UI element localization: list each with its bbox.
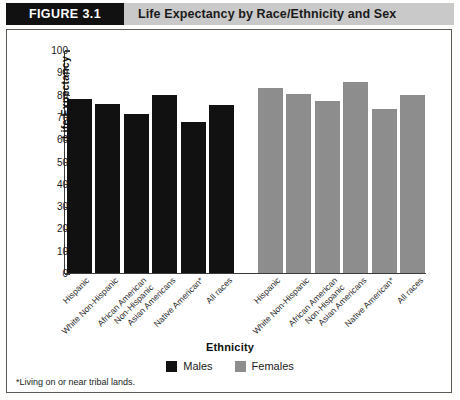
bars-layer [65,51,426,273]
x-axis-title: Ethnicity [0,341,460,353]
bar-males [67,99,92,273]
legend-item-males: Males [166,360,212,372]
x-axis-label: All races [395,276,425,306]
legend-swatch-females-icon [235,361,246,372]
bar-females [286,94,311,274]
figure-footnote: *Living on or near tribal lands. [16,377,135,387]
bar-males [95,104,120,273]
y-axis-tick-mark [65,273,70,274]
bar-females [343,82,368,273]
legend-swatch-males-icon [166,361,177,372]
bar-females [372,109,397,273]
figure-title: Life Expectancy by Race/Ethnicity and Se… [124,3,454,25]
legend-item-females: Females [235,360,294,372]
figure-number-badge: FIGURE 3.1 [6,3,124,25]
legend-label-males: Males [183,360,212,372]
bar-males [181,122,206,273]
bar-females [400,95,425,273]
bar-females [315,101,340,273]
chart-plot-area: Life Expectancy 0102030405060708090100 [64,51,426,274]
chart-legend: Males Females [0,360,460,372]
bar-males [124,114,149,273]
bar-males [152,95,177,273]
figure-header: FIGURE 3.1 Life Expectancy by Race/Ethni… [6,3,454,25]
legend-label-females: Females [252,360,294,372]
bar-females [258,88,283,273]
bar-males [209,105,234,273]
x-axis-label: All races [204,276,234,306]
x-axis-category-labels: HispanicWhite Non-HispanicAfrican Americ… [64,276,426,338]
